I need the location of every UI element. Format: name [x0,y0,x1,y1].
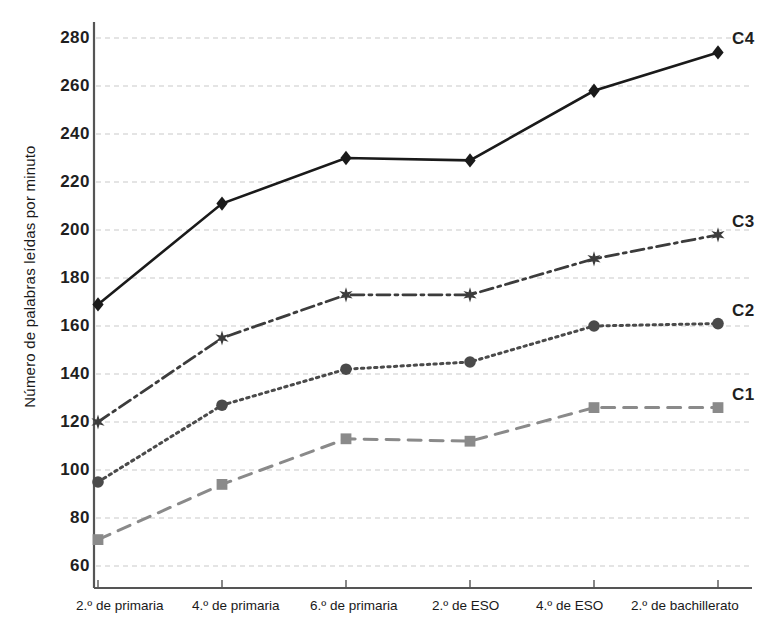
x-tick-2-primaria: 2.º de primaria [76,598,163,613]
series-label-c1: C1 [732,385,755,405]
data-point-marker [464,153,475,167]
data-point-marker [92,476,104,488]
series-c4 [92,45,723,311]
data-point-marker [465,436,476,447]
data-point-marker [341,433,352,444]
series-c1 [93,402,724,545]
data-point-marker [216,399,228,411]
line-chart: Número de palabras leídas por minuto 280… [0,0,762,628]
data-point-marker [464,356,476,368]
data-point-marker [340,363,352,375]
series-label-c2: C2 [732,301,755,321]
data-point-marker [588,84,599,98]
data-point-marker [589,402,600,413]
data-point-marker [216,196,227,210]
data-point-marker [588,320,600,332]
series-label-c4: C4 [732,29,755,49]
x-tick-2-eso: 2.º de ESO [432,598,499,613]
data-point-marker [215,330,228,345]
series-line [98,324,718,482]
data-point-marker [340,151,351,165]
gridlines [96,38,752,566]
series-line [98,52,718,304]
axis-lines [94,22,752,588]
data-point-marker [93,534,104,545]
x-tick-4-eso: 4.º de ESO [536,598,603,613]
x-tick-6-primaria: 6.º de primaria [310,598,397,613]
chart-canvas [0,0,762,628]
x-tick-2-bachillerato: 2.º de bachillerato [631,598,739,613]
data-point-marker [712,318,724,330]
series-label-c3: C3 [732,212,755,232]
data-point-marker [713,402,724,413]
data-point-marker [712,45,723,59]
data-point-marker [217,479,228,490]
x-axis-ticks [98,580,718,588]
series-line [98,408,718,540]
series-c3 [91,227,724,429]
series-line [98,235,718,422]
series-c2 [92,318,724,488]
x-tick-4-primaria: 4.º de primaria [192,598,279,613]
